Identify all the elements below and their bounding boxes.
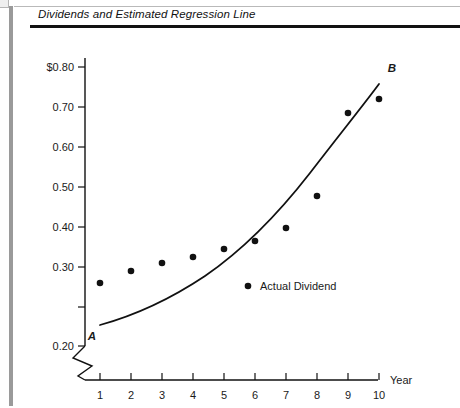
x-tick-label-9: 9 [345, 389, 351, 401]
x-tick-label-5: 5 [221, 389, 227, 401]
page-title: Dividends and Estimated Regression Line [38, 8, 255, 20]
scatter-chart: $0.80 0.70 0.60 0.50 0.40 0.30 0.20 1 [0, 28, 460, 408]
y-tick-label-020: 0.20 [53, 340, 74, 352]
axis-break-symbol [73, 346, 92, 380]
data-point-year-5 [221, 246, 228, 253]
y-tick-label-030: 0.30 [53, 261, 74, 273]
x-tick-label-1: 1 [97, 389, 103, 401]
title-band: Dividends and Estimated Regression Line [30, 6, 460, 25]
x-tick-label-6: 6 [252, 389, 258, 401]
x-tick-label-4: 4 [190, 389, 196, 401]
data-point-year-9 [345, 110, 352, 117]
curve-start-label-a: A [87, 330, 96, 342]
data-point-year-6 [252, 238, 259, 245]
y-tick-label-040: 0.40 [53, 221, 74, 233]
x-tick-label-7: 7 [283, 389, 289, 401]
curve-end-label-b: B [388, 62, 396, 74]
data-point-year-8 [314, 193, 321, 200]
legend-label-actual-dividend: Actual Dividend [260, 280, 336, 292]
y-tick-label-060: 0.60 [53, 141, 74, 153]
data-point-series [97, 96, 383, 287]
x-tick-label-3: 3 [159, 389, 165, 401]
y-axis-ticks [78, 67, 85, 346]
data-point-year-1 [97, 280, 104, 287]
data-point-year-7 [283, 225, 290, 232]
x-axis-ticks [100, 373, 379, 380]
page-root: Dividends and Estimated Regression Line [0, 0, 460, 408]
page-corner-mark [0, 0, 9, 8]
x-tick-label-10: 10 [373, 389, 385, 401]
chart-legend: Actual Dividend [245, 280, 337, 292]
y-tick-label-080: $0.80 [46, 61, 74, 73]
x-tick-label-2: 2 [128, 389, 134, 401]
data-point-year-3 [159, 260, 166, 267]
chart-area: $0.80 0.70 0.60 0.50 0.40 0.30 0.20 1 [0, 28, 460, 408]
legend-marker-actual-dividend [245, 283, 252, 290]
y-tick-label-050: 0.50 [53, 181, 74, 193]
y-tick-label-070: 0.70 [53, 101, 74, 113]
regression-curve [100, 84, 379, 325]
data-point-year-10 [376, 96, 383, 103]
data-point-year-4 [190, 254, 197, 261]
data-point-year-2 [128, 268, 135, 275]
x-tick-label-8: 8 [314, 389, 320, 401]
x-axis-title: Year [390, 374, 413, 386]
